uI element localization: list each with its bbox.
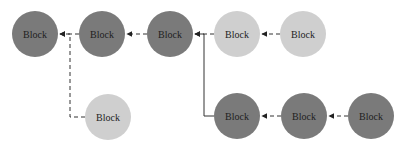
- node-i: Block: [348, 93, 394, 139]
- blockchain-fork-diagram: Block Block Block Block Block Block Bloc…: [0, 0, 402, 148]
- node-label: Block: [158, 29, 182, 40]
- node-label: Block: [292, 111, 316, 122]
- node-label: Block: [96, 112, 120, 123]
- node-e: Block: [280, 11, 326, 57]
- node-g: Block: [214, 93, 260, 139]
- node-label: Block: [359, 111, 383, 122]
- node-d: Block: [214, 11, 260, 57]
- node-label: Block: [225, 29, 249, 40]
- node-h: Block: [281, 93, 327, 139]
- edge-g-to-c: [204, 34, 214, 116]
- node-label: Block: [23, 29, 47, 40]
- node-label: Block: [291, 29, 315, 40]
- node-label: Block: [225, 111, 249, 122]
- node-label: Block: [90, 29, 114, 40]
- node-f: Block: [85, 94, 131, 140]
- node-b: Block: [79, 11, 125, 57]
- node-a: Block: [12, 11, 58, 57]
- node-c: Block: [147, 11, 193, 57]
